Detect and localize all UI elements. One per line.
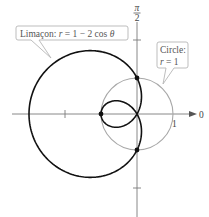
- polar-graph: 0 1 π 2 Limaçon: r = 1 − 2 cos θ Circle:…: [0, 0, 209, 217]
- intersection-point-bottom: [135, 148, 140, 153]
- pi-over-two-label: π 2: [134, 3, 141, 23]
- limacon-label: Limaçon: r = 1 − 2 cos θ: [20, 29, 115, 39]
- two-digit: 2: [135, 13, 140, 23]
- circle-label-line2: r = 1: [160, 57, 179, 67]
- limacon-label-equation: = 1 − 2 cos: [62, 29, 109, 39]
- circle-label-line1: Circle:: [160, 45, 186, 55]
- polar-axis-label: 0: [199, 110, 204, 120]
- intersection-point-inner-loop-tip: [99, 112, 104, 117]
- tick-label-one: 1: [172, 119, 177, 129]
- pi-symbol: π: [135, 3, 140, 13]
- circle-callout: Circle: r = 1: [157, 42, 188, 84]
- circle-label-value: = 1: [164, 57, 179, 67]
- intersection-point-top: [135, 76, 140, 81]
- limacon-label-prefix: Limaçon:: [20, 29, 59, 39]
- polar-axis-arrow-icon: [189, 111, 197, 117]
- limacon-label-theta: θ: [110, 29, 115, 39]
